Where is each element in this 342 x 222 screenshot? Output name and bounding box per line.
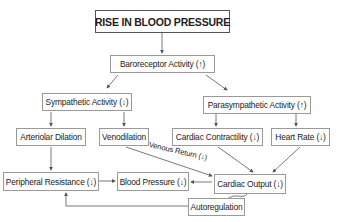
- node-label: Peripheral Resistance (↓): [6, 177, 96, 187]
- arrow-baroreceptor-parasympathetic: [206, 75, 227, 90]
- node-cardiac-output: Cardiac Output (↓): [214, 174, 286, 194]
- node-arteriolar-dilation: Arteriolar Dilation: [16, 128, 86, 146]
- node-label: Baroreceptor Activity (↑): [120, 59, 205, 69]
- node-blood-pressure: Blood Pressure (↓): [117, 172, 189, 191]
- node-venodilation: Venodilation: [99, 128, 149, 146]
- node-label: Sympathetic Activity (↓): [46, 97, 129, 107]
- node-label: Arteriolar Dilation: [20, 132, 81, 142]
- title-text: RISE IN BLOOD PRESSURE: [95, 16, 230, 28]
- node-heart-rate: Heart Rate (↓): [271, 128, 330, 146]
- arrow-baroreceptor-sympathetic: [107, 75, 118, 88]
- node-label: Blood Pressure (↓): [120, 177, 187, 187]
- title-box: RISE IN BLOOD PRESSURE: [95, 10, 230, 33]
- node-sympathetic: Sympathetic Activity (↓): [42, 93, 132, 111]
- node-label: Autoregulation: [191, 202, 243, 212]
- node-label: Cardiac Contractility (↓): [176, 132, 259, 142]
- arrow-autoregulation-peripheral: [66, 193, 188, 206]
- arrow-heartrate-output: [273, 147, 300, 172]
- node-label: Parasympathetic Activity (↑): [208, 100, 307, 110]
- node-label: Heart Rate (↓): [275, 132, 326, 142]
- node-label: Cardiac Output (↓): [217, 179, 283, 189]
- node-baroreceptor: Baroreceptor Activity (↑): [110, 55, 215, 73]
- node-label: Venodilation: [102, 132, 146, 142]
- node-peripheral-resistance: Peripheral Resistance (↓): [3, 172, 99, 191]
- node-cardiac-contractility: Cardiac Contractility (↓): [172, 128, 263, 146]
- node-autoregulation: Autoregulation: [188, 198, 245, 216]
- arrow-contractility-output: [218, 147, 253, 172]
- node-parasympathetic: Parasympathetic Activity (↑): [203, 96, 311, 114]
